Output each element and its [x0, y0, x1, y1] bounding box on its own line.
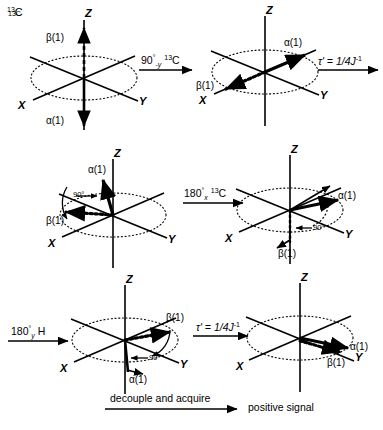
decouple-acquire-label: decouple and acquire — [110, 393, 210, 404]
op1-sub: -y — [156, 61, 162, 68]
op5-sup: -1 — [234, 321, 240, 328]
op4-main: 180 — [11, 325, 29, 337]
panel-1-alpha-label: α(1) — [46, 115, 64, 126]
panel-5-alpha-label: α(1) — [129, 374, 147, 385]
panel-4-axis-x: X — [225, 233, 232, 244]
op1-main: 90 — [141, 54, 153, 66]
panel-1-axis-y: Y — [139, 96, 146, 107]
nucleus-label-13c: 13C — [7, 7, 23, 19]
operation-label-180-x-13c: 180°x 13C — [184, 188, 226, 200]
panel-2-after-90 — [211, 16, 319, 126]
panel-6-refocused-y — [246, 283, 354, 392]
op3-sub: x — [204, 194, 208, 201]
panel-2-beta-label: β(1) — [196, 80, 214, 91]
panel-3-axis-y: Y — [168, 234, 175, 245]
operation-label-tau-2: τ' = 1/4J-1 — [196, 322, 240, 334]
operation-label-180-y-h: 180°y H — [11, 326, 45, 338]
op3-sup-nuc: 13 — [211, 187, 219, 194]
operation-label-tau-1: τ' = 1/4J-1 — [318, 56, 362, 68]
panel-3-after-tau-1 — [59, 159, 167, 268]
op1-nuc: C — [172, 54, 180, 66]
panel-1-beta-label: β(1) — [46, 32, 64, 43]
panel-5-axis-z: Z — [126, 274, 133, 285]
panel-6-axis-x: X — [236, 361, 243, 372]
panel-6-beta-label: β(1) — [327, 357, 345, 368]
positive-signal-label: positive signal — [248, 402, 314, 413]
op2-main: τ' = 1/4J — [318, 55, 356, 67]
panel-3-beta-label: β(1) — [46, 215, 64, 226]
panel-4-axis-z: Z — [291, 144, 298, 155]
op3-deg: ° — [202, 187, 205, 194]
panel-3-axis-x: X — [48, 238, 55, 249]
panel-3-angle-label: 90° — [73, 189, 84, 200]
op1-deg: ° — [153, 54, 156, 61]
panel-3-alpha-label: α(1) — [88, 164, 106, 175]
panel-5-axis-y: Y — [180, 359, 187, 370]
panel-6-alpha-label: α(1) — [350, 341, 368, 352]
panel-6-axis-z: Z — [301, 272, 308, 283]
panel-4-angle-label: 90° — [313, 222, 324, 233]
op4-deg: ° — [29, 325, 32, 332]
panel-5-after-180y-H — [71, 285, 179, 394]
op4-sub: y — [31, 332, 35, 339]
panel-6-axis-y: Y — [355, 352, 362, 363]
panel-2-axis-z: Z — [266, 5, 273, 16]
op5-main: τ' = 1/4J — [196, 321, 234, 333]
panel-3-axis-z: Z — [114, 148, 121, 159]
operation-label-90-minus-y-13c: 90°-y 13C — [141, 55, 180, 67]
panel-2-axis-y: Y — [320, 90, 327, 101]
op4-nuc: H — [38, 325, 46, 337]
panel-1-axis-x: X — [18, 100, 25, 111]
panel-4-beta-label: β(1) — [278, 248, 296, 259]
panel-4-alpha-label: α(1) — [338, 190, 356, 201]
op2-sup: -1 — [356, 55, 362, 62]
panel-2-alpha-label: α(1) — [284, 37, 302, 48]
op1-sup-nuc: 13 — [164, 54, 172, 61]
figure-canvas: 13C 13C Z X Y β(1) α(1) Z X Y α(1) β(1) … — [0, 0, 383, 430]
panel-5-angle-label: 90° — [149, 352, 160, 363]
op3-main: 180 — [184, 187, 202, 199]
panel-5-axis-x: X — [60, 363, 67, 374]
panel-4-axis-y: Y — [345, 229, 352, 240]
panel-2-axis-x: X — [199, 95, 206, 106]
panel-5-beta-label: β(1) — [166, 312, 184, 323]
op3-nuc: C — [219, 187, 227, 199]
panel-1-axis-z: Z — [85, 8, 92, 19]
